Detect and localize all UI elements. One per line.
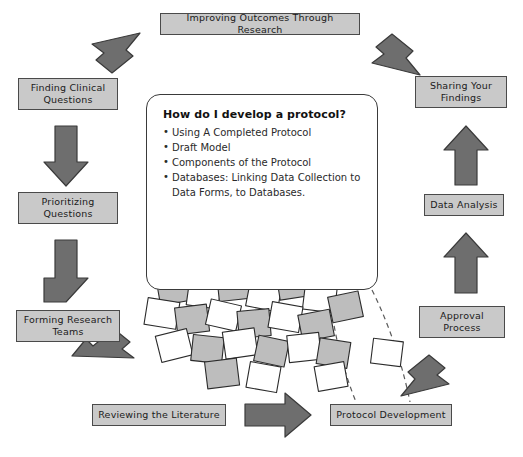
callout-heading: How do I develop a protocol?	[163, 108, 363, 121]
callout-list-item: Draft Model	[163, 141, 363, 156]
node-forming-research-teams[interactable]: Forming Research Teams	[16, 310, 120, 342]
callout-list-item: Using A Completed Protocol	[163, 126, 363, 141]
node-protocol-development[interactable]: Protocol Development	[330, 404, 452, 426]
callout-list: Using A Completed Protocol Draft Model C…	[163, 126, 363, 200]
callout-list-item: Components of the Protocol	[163, 156, 363, 171]
diagram-canvas: How do I develop a protocol? Using A Com…	[0, 0, 523, 457]
node-prioritizing-questions[interactable]: Prioritizing Questions	[18, 192, 118, 224]
node-reviewing-the-literature[interactable]: Reviewing the Literature	[92, 404, 226, 426]
protocol-callout: How do I develop a protocol? Using A Com…	[146, 94, 378, 290]
node-sharing-your-findings[interactable]: Sharing Your Findings	[415, 76, 507, 108]
callout-list-item: Databases: Linking Data Collection to Da…	[163, 171, 363, 200]
node-improving-outcomes[interactable]: Improving Outcomes Through Research	[160, 13, 360, 35]
node-finding-clinical-questions[interactable]: Finding Clinical Questions	[18, 78, 118, 110]
node-approval-process[interactable]: Approval Process	[419, 306, 505, 338]
node-data-analysis[interactable]: Data Analysis	[424, 194, 504, 216]
